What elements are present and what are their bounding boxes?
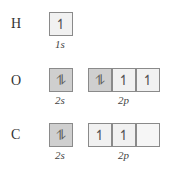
orbital-box-o-2p-1: ⥮ [88,68,112,92]
orbital-box-o-2p-3: ↿ [136,68,160,92]
orbital-label-o-2s: 2s [55,94,65,106]
orbital-box-h-1s: ↿ [49,12,73,36]
orbital-box-c-2p-1: ↿ [88,123,112,147]
orbital-label-h-1s: 1s [55,38,65,50]
orbital-box-c-2s: ⥮ [49,123,73,147]
orbital-label-o-2p: 2p [118,94,129,106]
orbital-box-o-2p-2: ↿ [112,68,136,92]
orbital-box-c-2p-3 [136,123,160,147]
orbital-label-c-2p: 2p [118,149,129,161]
element-label-c: C [11,127,20,143]
element-label-h: H [11,16,21,32]
element-label-o: O [11,73,21,89]
orbital-box-c-2p-2: ↿ [112,123,136,147]
orbital-label-c-2s: 2s [55,149,65,161]
orbital-box-o-2s: ⥮ [49,68,73,92]
